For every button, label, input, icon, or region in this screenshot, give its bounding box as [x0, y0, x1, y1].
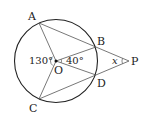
label-b: B — [97, 35, 105, 48]
angle-label-aoc: 130° — [29, 55, 53, 66]
angle-label-x: x — [112, 55, 118, 66]
label-d: D — [97, 77, 106, 90]
geometry-diagram: A B D C O P 130° 40° x — [0, 0, 149, 117]
label-p: P — [131, 55, 139, 68]
angle-arc-p — [122, 58, 123, 63]
label-a: A — [27, 10, 37, 23]
label-c: C — [29, 102, 37, 115]
label-o: O — [54, 64, 63, 77]
center-dot — [55, 60, 58, 63]
line-cp — [39, 61, 129, 99]
angle-label-bod: 40° — [66, 55, 84, 66]
